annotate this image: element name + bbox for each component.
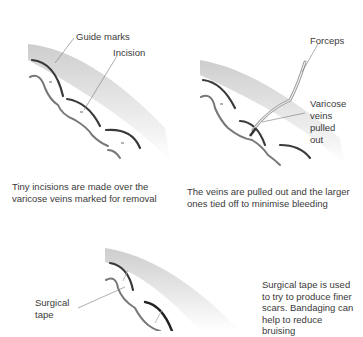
guide-marks-label: Guide marks xyxy=(76,31,130,42)
varicose-label-line-2: veins xyxy=(310,110,346,122)
surgical-tape-leader xyxy=(78,287,125,308)
surgical-tape-label: Surgical tape xyxy=(35,297,69,321)
step-1-caption-line-2: varicose veins marked for removal xyxy=(12,193,157,205)
step-1-caption-line-1: Tiny incisions are made over the xyxy=(12,181,157,193)
step-1-caption: Tiny incisions are made over the varicos… xyxy=(12,181,157,205)
step-3-caption-line-1: Surgical tape is used xyxy=(262,279,353,291)
varicose-veins-label: Varicose veins pulled out xyxy=(310,98,346,146)
step-2-caption: The veins are pulled out and the larger … xyxy=(187,186,350,210)
step-3-caption-line-5: bruising xyxy=(262,325,353,337)
varicose-label-line-3: pulled xyxy=(310,122,346,134)
step-2-caption-line-1: The veins are pulled out and the larger xyxy=(187,186,350,198)
forceps-label: Forceps xyxy=(310,35,344,46)
varicose-label-line-1: Varicose xyxy=(310,98,346,110)
incision-label: Incision xyxy=(113,47,145,58)
leg-illustration-3 xyxy=(78,248,240,331)
step-3-caption-line-4: help to reduce xyxy=(262,314,353,326)
forceps-leader xyxy=(302,44,318,72)
step-3-caption-line-3: scars. Bandaging can xyxy=(262,302,353,314)
step-2-caption-line-2: ones tied off to minimise bleeding xyxy=(187,198,350,210)
leg-illustration-1 xyxy=(28,38,170,160)
surgical-label-line-1: Surgical xyxy=(35,297,69,309)
step-3-caption-line-2: to try to produce finer xyxy=(262,291,353,303)
varicose-label-line-4: out xyxy=(310,134,346,146)
surgical-label-line-2: tape xyxy=(35,309,69,321)
step-3-caption: Surgical tape is used to try to produce … xyxy=(262,279,353,337)
